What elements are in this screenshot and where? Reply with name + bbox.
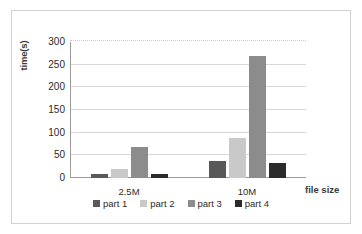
bar bbox=[131, 147, 148, 178]
x-axis-tick-label: 2.5M bbox=[118, 186, 139, 197]
legend-item-label: part 2 bbox=[150, 198, 174, 209]
bar bbox=[91, 174, 108, 178]
legend-swatch-icon bbox=[93, 200, 100, 207]
bar bbox=[151, 174, 168, 178]
y-axis-tick-label: 150 bbox=[19, 104, 65, 115]
legend-item-label: part 1 bbox=[103, 198, 127, 209]
legend-item: part 4 bbox=[235, 198, 269, 209]
bars-layer bbox=[70, 42, 306, 178]
bar bbox=[111, 169, 128, 178]
y-axis-tick-label: 200 bbox=[19, 81, 65, 92]
legend-swatch-icon bbox=[140, 200, 147, 207]
x-axis-tick-label: 10M bbox=[238, 186, 256, 197]
legend-item-label: part 4 bbox=[245, 198, 269, 209]
y-axis-tick-label: 50 bbox=[19, 149, 65, 160]
bar bbox=[249, 56, 266, 178]
y-axis-tick-label: 300 bbox=[19, 36, 65, 47]
chart-legend: part 1part 2part 3part 4 bbox=[0, 198, 362, 209]
legend-swatch-icon bbox=[188, 200, 195, 207]
bar bbox=[209, 161, 226, 178]
y-axis-title: time(s) bbox=[18, 26, 29, 86]
bar bbox=[229, 138, 246, 178]
y-axis-tick-label: 250 bbox=[19, 58, 65, 69]
legend-item: part 3 bbox=[188, 198, 222, 209]
bar bbox=[269, 163, 286, 178]
legend-swatch-icon bbox=[235, 200, 242, 207]
y-axis-tick-label: 100 bbox=[19, 126, 65, 137]
bar-chart-figure: time(s) 050100150200250300 2.5M10M file … bbox=[0, 0, 362, 234]
x-axis-title: file size bbox=[305, 184, 339, 195]
legend-item: part 2 bbox=[140, 198, 174, 209]
legend-item: part 1 bbox=[93, 198, 127, 209]
y-axis-tick-label: 0 bbox=[19, 172, 65, 183]
legend-item-label: part 3 bbox=[198, 198, 222, 209]
plot-area: 050100150200250300 2.5M10M bbox=[70, 42, 306, 178]
